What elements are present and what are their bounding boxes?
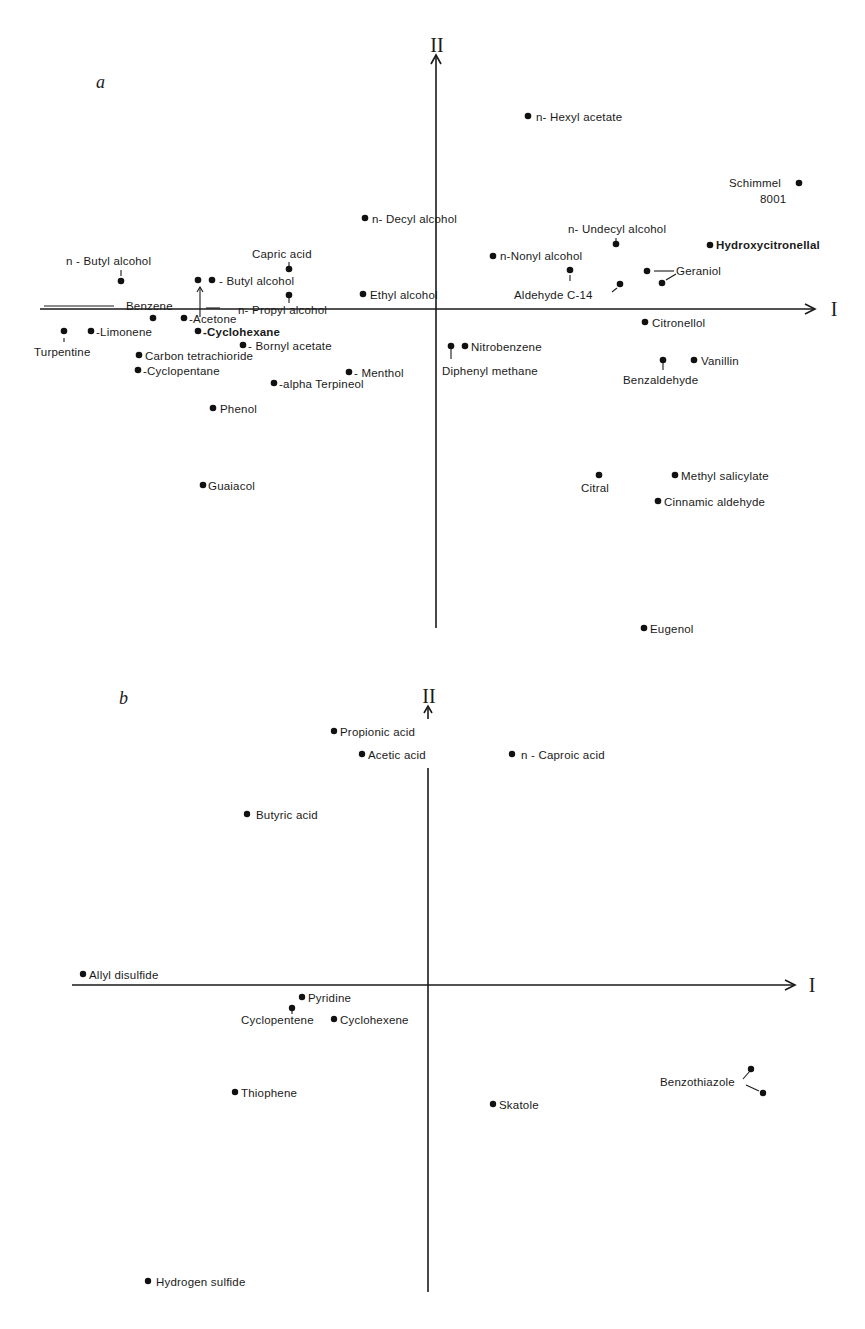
point-allyl-disulfide (80, 971, 86, 977)
point-acetic-acid (359, 751, 365, 757)
point-alpha-terpineol (271, 380, 278, 387)
label-citral: Citral (581, 482, 609, 494)
point-citral (596, 472, 603, 479)
point-n-hexyl-acetate (525, 113, 532, 120)
label-cinnamic-aldehyde: Cinnamic aldehyde (664, 496, 765, 508)
point-n-nonyl-alcohol (490, 253, 497, 260)
label-phenol: Phenol (220, 403, 257, 415)
point-benzothiazole-a (748, 1066, 754, 1072)
point-aldehyde-c14-a (567, 267, 574, 274)
axis-i-label: I (809, 974, 816, 996)
leader-benzothiazole-a (743, 1071, 750, 1079)
label-benzaldehyde: Benzaldehyde (623, 374, 698, 386)
point-cyclohexane (195, 328, 202, 335)
panel-b-labels: Propionic acid Acetic acid n - Caproic a… (89, 726, 735, 1288)
label-n-undecyl-alcohol: n- Undecyl alcohol (568, 223, 666, 235)
label-geraniol: Geraniol (676, 265, 721, 277)
label-n-nonyl-alcohol: n-Nonyl alcohol (500, 250, 582, 262)
point-benzothiazole-b (760, 1090, 766, 1096)
point-geraniol-a (644, 268, 651, 275)
point-propionic-acid (331, 728, 337, 734)
label-carbon-tetrachloride: Carbon tetrachioride (145, 350, 253, 362)
label-cyclopentane: -Cyclopentane (143, 365, 220, 377)
label-thiophene: Thiophene (241, 1087, 297, 1099)
panel-b: b II I (72, 685, 815, 1292)
point-n-propyl-alcohol (286, 292, 293, 299)
label-benzene: Benzene (126, 300, 173, 312)
point-phenol (210, 405, 217, 412)
label-nitrobenzene: Nitrobenzene (471, 341, 542, 353)
label-n-caproic-acid: n - Caproic acid (521, 749, 605, 761)
label-vanillin: Vanillin (701, 355, 739, 367)
point-cinnamic-aldehyde (655, 498, 662, 505)
point-n-caproic-acid (509, 751, 515, 757)
label-aldehyde-c14: Aldehyde C-14 (514, 289, 593, 301)
point-nitrobenzene (462, 343, 469, 350)
axis-ii-label: II (430, 34, 443, 56)
label-schimmel-number: 8001 (760, 193, 786, 205)
label-bornyl-acetate: - Bornyl acetate (248, 340, 332, 352)
label-skatole: Skatole (499, 1099, 539, 1111)
point-guaiacol (200, 482, 207, 489)
label-n-propyl-alcohol: n- Propyl alcohol (238, 304, 327, 316)
label-n-butyl-alcohol: n - Butyl alcohol (66, 255, 151, 267)
point-carbon-tetrachloride (136, 352, 143, 359)
point-geraniol-b (659, 280, 666, 287)
axis-ii-label: II (422, 685, 435, 707)
axis-i-label: I (831, 298, 838, 320)
label-ethyl-alcohol: Ethyl alcohol (370, 289, 438, 301)
point-acetone (181, 315, 188, 322)
label-benzothiazole: Benzothiazole (660, 1076, 735, 1088)
label-cyclohexane: -Cyclohexane (203, 326, 280, 338)
label-schimmel: Schimmel (729, 177, 781, 189)
point-citronellol (642, 319, 649, 326)
label-hydrogen-sulfide: Hydrogen sulfide (156, 1276, 246, 1288)
label-n-decyl-alcohol: n- Decyl alcohol (372, 213, 457, 225)
panel-a-letter: a (96, 72, 105, 92)
point-cyclopentene (289, 1005, 295, 1011)
label-cyclopentene: Cyclopentene (241, 1014, 314, 1026)
label-limonene: -Limonene (96, 326, 152, 338)
point-butyric-acid (244, 811, 250, 817)
point-menthol (346, 369, 353, 376)
label-capric-acid: Capric acid (252, 248, 312, 260)
point-n-butyl-alcohol (118, 278, 125, 285)
leader-aldehyde-c14-b (612, 288, 617, 292)
label-methyl-salicylate: Methyl salicylate (681, 470, 769, 482)
point-methyl-salicylate (672, 472, 679, 479)
point-benzaldehyde (660, 357, 667, 364)
panel-b-axes: II I (72, 685, 815, 1292)
panel-a-axes: II I (40, 34, 837, 628)
point-vanillin (691, 357, 698, 364)
panel-a: a II I (34, 34, 837, 635)
point-benzene (150, 315, 157, 322)
point-eugenol (641, 625, 648, 632)
label-guaiacol: Guaiacol (208, 480, 255, 492)
leader-geraniol-b (666, 274, 676, 280)
label-hydroxycitronellal: Hydroxycitronellal (716, 239, 820, 251)
point-schimmel-8001 (796, 180, 803, 187)
panel-a-labels: n- Hexyl acetate Schimmel 8001 n- Decyl … (34, 111, 820, 635)
label-cyclohexene: Cyclohexene (340, 1014, 409, 1026)
label-acetic-acid: Acetic acid (368, 749, 426, 761)
point-turpentine (61, 328, 68, 335)
figure: a II I (0, 0, 865, 1329)
label-citronellol: Citronellol (652, 317, 705, 329)
panel-b-letter: b (119, 688, 128, 708)
label-turpentine: Turpentine (34, 346, 91, 358)
point-capric-acid (286, 266, 293, 273)
point-ethyl-alcohol (360, 291, 367, 298)
point-cyclopentane (135, 367, 142, 374)
point-hydrogen-sulfide (145, 1278, 151, 1284)
point-aldehyde-c14-b (617, 281, 624, 288)
point-limonene (88, 328, 95, 335)
point-n-undecyl-alcohol (613, 241, 620, 248)
label-diphenyl-methane: Diphenyl methane (442, 365, 538, 377)
point-hydroxycitronellal (707, 242, 714, 249)
panel-b-points (80, 728, 766, 1284)
label-butyl-alcohol: - Butyl alcohol (219, 275, 294, 287)
point-thiophene (232, 1089, 238, 1095)
point-cyclohexene (331, 1016, 337, 1022)
label-acetone: -Acetone (189, 313, 237, 325)
label-allyl-disulfide: Allyl disulfide (89, 969, 158, 981)
